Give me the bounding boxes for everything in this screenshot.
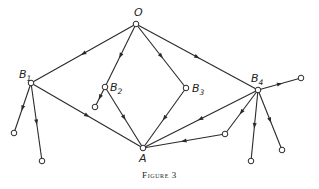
node-b3	[183, 85, 189, 91]
node-b2	[102, 84, 108, 90]
node-l6	[248, 158, 254, 164]
node-label-b3: B3	[192, 82, 205, 97]
node-label-a: A	[138, 152, 147, 165]
arrow-icon	[194, 54, 201, 60]
arrow-icon	[20, 105, 26, 111]
node-l7	[279, 147, 285, 153]
node-label-b4: B4	[251, 72, 264, 87]
arrow-icon	[84, 113, 91, 119]
node-l2	[39, 158, 45, 164]
directed-graph: OB1B2B3B4A	[0, 0, 319, 189]
arrow-icon	[80, 51, 87, 57]
arrow-icon	[267, 117, 273, 124]
node-l3	[92, 104, 98, 110]
node-l4	[298, 75, 304, 81]
node-label-o: O	[134, 6, 143, 19]
arrow-icon	[252, 123, 257, 129]
node-o	[133, 21, 139, 27]
arrow-icon	[277, 81, 283, 86]
arrow-icon	[117, 52, 123, 59]
node-a	[140, 145, 146, 151]
arrow-icon	[197, 116, 204, 122]
figure-caption: Figure 3	[0, 170, 319, 180]
node-l5	[222, 131, 228, 137]
arrow-icon	[97, 94, 103, 101]
node-label-b1: B1	[19, 68, 31, 83]
node-l1	[11, 130, 17, 136]
arrow-icon	[121, 114, 127, 121]
node-label-b2: B2	[110, 81, 123, 96]
node-b4	[255, 87, 261, 93]
